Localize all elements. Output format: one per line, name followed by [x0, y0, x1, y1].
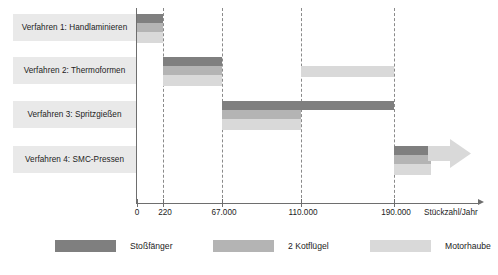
row-label-verfahren-4: Verfahren 4: SMC-Pressen: [13, 146, 136, 173]
band-segment-kotfluegel: [137, 23, 163, 32]
band-verfahren-2-span-1: [163, 57, 222, 86]
legend-swatch-kotfluegel: [213, 240, 274, 252]
tick-label-220: 220: [158, 208, 172, 217]
band-segment-stossfaenger: [137, 14, 163, 23]
tick-mark-190000: [394, 199, 395, 207]
row-label-verfahren-3: Verfahren 3: Spritzgießen: [13, 101, 136, 128]
legend-swatch-stossfaenger: [55, 240, 116, 252]
tick-label-0: 0: [135, 208, 140, 217]
band-segment-motorhaube: [394, 164, 431, 175]
band-segment-stossfaenger: [163, 57, 222, 66]
tick-mark-220: [163, 199, 164, 207]
y-axis-line: [136, 8, 137, 203]
band-segment-stossfaenger: [301, 101, 394, 110]
legend-label-kotfluegel: 2 Kotflügel: [288, 241, 329, 251]
legend-swatch-motorhaube: [370, 240, 431, 252]
row-label-verfahren-1: Verfahren 1: Handlaminieren: [13, 14, 136, 41]
band-verfahren-4-span-1: [394, 146, 431, 175]
x-axis-title: Stückzahl/Jahr: [424, 208, 478, 217]
tick-label-190000: 190.000: [381, 208, 411, 217]
continuation-arrow-icon: [428, 139, 472, 183]
row-label-text: Verfahren 4: SMC-Pressen: [25, 155, 124, 164]
x-axis-arrowhead-icon: [478, 199, 484, 205]
plot-area: Verfahren 1: Handlaminieren Verfahren 2:…: [0, 0, 498, 225]
legend-item-motorhaube: Motorhaube: [370, 238, 491, 254]
row-label-text: Verfahren 3: Spritzgießen: [27, 110, 121, 119]
x-axis-line: [136, 203, 478, 204]
band-verfahren-1-span-1: [137, 14, 163, 43]
legend-label-motorhaube: Motorhaube: [445, 241, 491, 251]
legend: Stoßfänger 2 Kotflügel Motorhaube: [0, 238, 498, 264]
band-segment-motorhaube: [222, 119, 301, 130]
tick-mark-0: [137, 199, 138, 207]
band-verfahren-2-span-2: [301, 66, 394, 77]
tick-label-67000: 67.000: [211, 208, 236, 217]
band-segment-stossfaenger: [222, 101, 301, 110]
bar-chart: Verfahren 1: Handlaminieren Verfahren 2:…: [0, 0, 498, 275]
gridline-220: [163, 8, 164, 203]
band-segment-kotfluegel: [222, 110, 301, 119]
tick-mark-67000: [222, 199, 223, 207]
legend-item-kotfluegel: 2 Kotflügel: [213, 238, 329, 254]
band-segment-stossfaenger: [394, 146, 431, 155]
band-segment-kotfluegel: [394, 155, 431, 164]
band-verfahren-3-span-1: [222, 101, 301, 130]
tick-label-110000: 110.000: [289, 208, 318, 217]
row-label-verfahren-2: Verfahren 2: Thermoformen: [13, 57, 136, 84]
band-segment-motorhaube: [163, 75, 222, 86]
band-segment-motorhaube: [137, 32, 163, 43]
band-segment-motorhaube: [301, 66, 394, 77]
tick-mark-110000: [301, 199, 302, 207]
band-segment-kotfluegel: [163, 66, 222, 75]
legend-item-stossfaenger: Stoßfänger: [55, 238, 173, 254]
row-label-text: Verfahren 2: Thermoformen: [24, 66, 126, 75]
band-verfahren-3-span-2: [301, 101, 394, 110]
row-label-text: Verfahren 1: Handlaminieren: [22, 23, 128, 32]
legend-label-stossfaenger: Stoßfänger: [130, 241, 173, 251]
